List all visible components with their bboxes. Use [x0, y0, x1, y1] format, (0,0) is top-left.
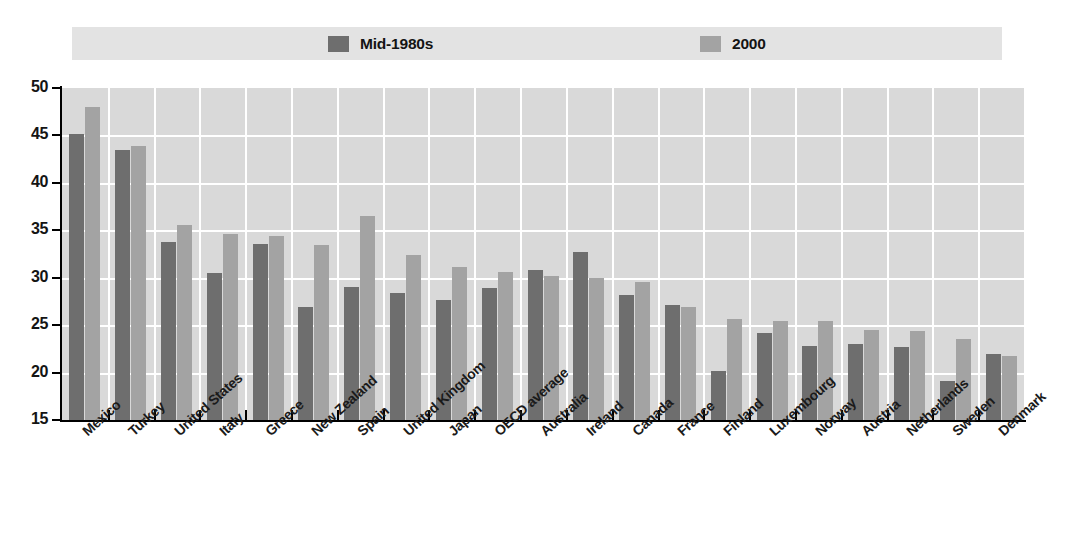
- y-axis-tick-label: 40: [8, 173, 48, 191]
- legend-label: Mid-1980s: [360, 35, 433, 53]
- y-axis-tick-label: 35: [8, 220, 48, 238]
- bar-mid-1980s-united-states: [161, 242, 176, 420]
- vertical-gridline: [154, 88, 156, 420]
- vertical-gridline: [428, 88, 430, 420]
- horizontal-gridline: [62, 230, 1024, 232]
- bar-2000-netherlands: [910, 331, 925, 420]
- y-axis-tick: [52, 419, 61, 421]
- vertical-gridline: [749, 88, 751, 420]
- y-axis-tick: [52, 277, 61, 279]
- bar-2000-norway: [818, 321, 833, 420]
- bar-2000-finland: [727, 319, 742, 420]
- bar-2000-austria: [864, 330, 879, 420]
- y-axis-tick-label: 25: [8, 315, 48, 333]
- legend-entry-0: Mid-1980s: [328, 27, 433, 60]
- bar-2000-new-zealand: [314, 245, 329, 420]
- bar-mid-1980s-canada: [619, 295, 634, 420]
- bar-mid-1980s-mexico: [69, 134, 84, 420]
- chart-figure: Mid-1980s2000 5045403530252015MexicoTurk…: [0, 0, 1069, 559]
- bar-mid-1980s-united-kingdom: [390, 293, 405, 420]
- bar-2000-luxembourg: [773, 321, 788, 420]
- bar-2000-greece: [269, 236, 284, 420]
- vertical-gridline: [108, 88, 110, 420]
- vertical-gridline: [932, 88, 934, 420]
- y-axis-tick-label: 30: [8, 268, 48, 286]
- vertical-gridline: [612, 88, 614, 420]
- vertical-gridline: [795, 88, 797, 420]
- bar-2000-canada: [635, 282, 650, 420]
- y-axis-tick: [52, 87, 61, 89]
- vertical-gridline: [703, 88, 705, 420]
- bar-2000-turkey: [131, 146, 146, 420]
- vertical-gridline: [337, 88, 339, 420]
- legend-label: 2000: [732, 35, 766, 53]
- horizontal-gridline: [62, 135, 1024, 137]
- vertical-gridline: [658, 88, 660, 420]
- vertical-gridline: [245, 88, 247, 420]
- bar-2000-france: [681, 307, 696, 420]
- legend-swatch-icon: [700, 36, 721, 52]
- vertical-gridline: [887, 88, 889, 420]
- bar-2000-united-states: [177, 225, 192, 420]
- y-axis-tick: [52, 372, 61, 374]
- vertical-gridline: [291, 88, 293, 420]
- y-axis-tick-label: 15: [8, 410, 48, 428]
- bar-2000-mexico: [85, 107, 100, 420]
- legend-swatch-icon: [328, 36, 349, 52]
- bar-mid-1980s-oecd-average: [482, 288, 497, 420]
- vertical-gridline: [978, 88, 980, 420]
- plot-area: [62, 88, 1024, 420]
- bar-2000-ireland: [589, 278, 604, 420]
- plot-wrapper: [62, 88, 1024, 420]
- y-axis-tick: [52, 324, 61, 326]
- y-axis-tick-label: 50: [8, 78, 48, 96]
- chart-legend: Mid-1980s2000: [72, 27, 1002, 60]
- vertical-gridline: [520, 88, 522, 420]
- y-axis-tick: [52, 229, 61, 231]
- y-axis-tick: [52, 134, 61, 136]
- bar-2000-oecd-average: [498, 272, 513, 420]
- bar-mid-1980s-turkey: [115, 150, 130, 420]
- legend-entry-1: 2000: [700, 27, 766, 60]
- vertical-gridline: [199, 88, 201, 420]
- bar-mid-1980s-greece: [253, 244, 268, 420]
- y-axis-tick: [52, 182, 61, 184]
- vertical-gridline: [383, 88, 385, 420]
- y-axis-tick-label: 20: [8, 363, 48, 381]
- vertical-gridline: [841, 88, 843, 420]
- horizontal-gridline: [62, 183, 1024, 185]
- bar-2000-united-kingdom: [406, 255, 421, 420]
- y-axis-tick-label: 45: [8, 125, 48, 143]
